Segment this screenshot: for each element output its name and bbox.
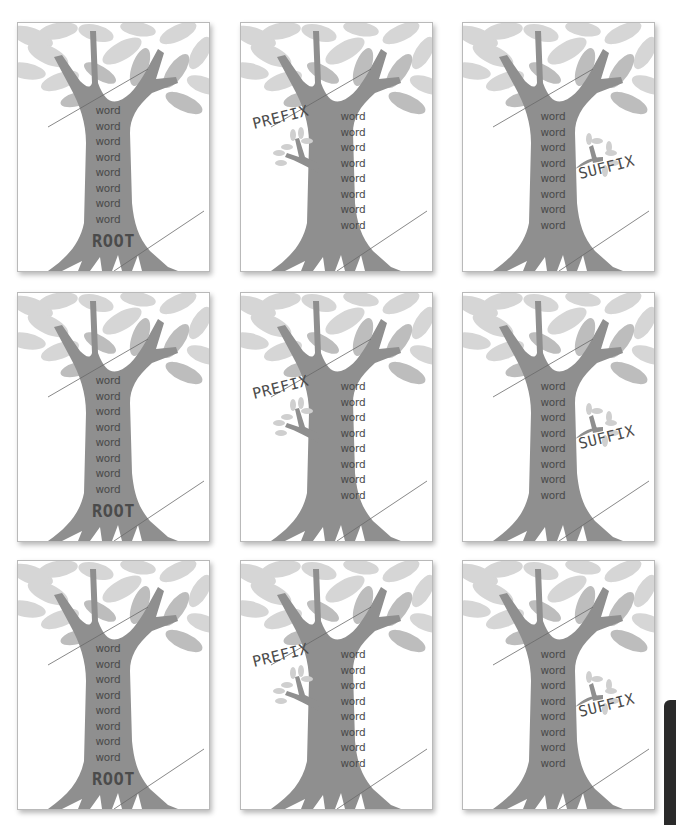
word-entry: word — [333, 457, 373, 473]
word-entry: word — [533, 740, 573, 756]
word-entry: word — [533, 171, 573, 187]
word-entry: word — [333, 709, 373, 725]
word-entry: word — [533, 457, 573, 473]
tree-card-root: wordwordwordwordwordwordwordword ROOT — [17, 292, 210, 542]
word-entry: word — [88, 672, 128, 688]
word-entry: word — [533, 441, 573, 457]
word-list: wordwordwordwordwordwordwordword — [88, 103, 128, 227]
word-entry: word — [333, 488, 373, 504]
word-entry: word — [333, 756, 373, 772]
word-entry: word — [533, 756, 573, 772]
word-entry: word — [333, 187, 373, 203]
word-list: wordwordwordwordwordwordwordword — [333, 109, 373, 233]
word-entry: word — [88, 150, 128, 166]
word-entry: word — [333, 426, 373, 442]
word-entry: word — [533, 472, 573, 488]
tree-card-prefix: wordwordwordwordwordwordwordword PREFIX — [240, 292, 433, 542]
word-entry: word — [88, 196, 128, 212]
word-list: wordwordwordwordwordwordwordword — [333, 379, 373, 503]
word-entry: word — [88, 119, 128, 135]
word-entry: word — [333, 647, 373, 663]
word-entry: word — [88, 657, 128, 673]
word-entry: word — [88, 719, 128, 735]
word-entry: word — [533, 709, 573, 725]
word-entry: word — [533, 488, 573, 504]
word-entry: word — [88, 451, 128, 467]
root-label: ROOT — [92, 769, 135, 789]
tree-card-prefix: wordwordwordwordwordwordwordword PREFIX — [240, 560, 433, 810]
word-entry: word — [88, 103, 128, 119]
word-entry: word — [88, 750, 128, 766]
word-list: wordwordwordwordwordwordwordword — [88, 373, 128, 497]
tree-card-suffix: wordwordwordwordwordwordwordword SUFFIX — [462, 560, 655, 810]
word-entry: word — [333, 410, 373, 426]
word-entry: word — [333, 171, 373, 187]
word-entry: word — [333, 140, 373, 156]
word-entry: word — [88, 212, 128, 228]
word-list: wordwordwordwordwordwordwordword — [533, 379, 573, 503]
word-entry: word — [88, 703, 128, 719]
word-entry: word — [533, 410, 573, 426]
word-entry: word — [88, 181, 128, 197]
word-entry: word — [533, 140, 573, 156]
word-list: wordwordwordwordwordwordwordword — [533, 109, 573, 233]
word-entry: word — [88, 482, 128, 498]
root-label: ROOT — [92, 501, 135, 521]
word-entry: word — [533, 426, 573, 442]
side-tab-edge — [664, 700, 676, 825]
word-list: wordwordwordwordwordwordwordword — [533, 647, 573, 771]
word-entry: word — [533, 395, 573, 411]
word-entry: word — [333, 379, 373, 395]
word-entry: word — [88, 373, 128, 389]
word-entry: word — [333, 441, 373, 457]
word-list: wordwordwordwordwordwordwordword — [333, 647, 373, 771]
word-entry: word — [533, 663, 573, 679]
word-entry: word — [333, 109, 373, 125]
word-entry: word — [533, 694, 573, 710]
word-list: wordwordwordwordwordwordwordword — [88, 641, 128, 765]
tree-card-prefix: wordwordwordwordwordwordwordword PREFIX — [240, 22, 433, 272]
word-entry: word — [533, 218, 573, 234]
word-entry: word — [333, 740, 373, 756]
word-entry: word — [333, 694, 373, 710]
word-entry: word — [533, 109, 573, 125]
word-entry: word — [333, 395, 373, 411]
word-entry: word — [533, 725, 573, 741]
word-entry: word — [533, 678, 573, 694]
word-entry: word — [533, 156, 573, 172]
word-entry: word — [333, 472, 373, 488]
word-entry: word — [333, 125, 373, 141]
root-label: ROOT — [92, 231, 135, 251]
word-entry: word — [88, 389, 128, 405]
word-entry: word — [88, 734, 128, 750]
word-entry: word — [88, 404, 128, 420]
tree-card-root: wordwordwordwordwordwordwordword ROOT — [17, 560, 210, 810]
word-entry: word — [533, 647, 573, 663]
word-entry: word — [88, 641, 128, 657]
word-entry: word — [533, 202, 573, 218]
word-entry: word — [88, 435, 128, 451]
word-entry: word — [533, 125, 573, 141]
tree-card-root: wordwordwordwordwordwordwordword ROOT — [17, 22, 210, 272]
word-entry: word — [88, 688, 128, 704]
word-entry: word — [88, 134, 128, 150]
word-entry: word — [333, 663, 373, 679]
word-entry: word — [333, 678, 373, 694]
tree-card-suffix: wordwordwordwordwordwordwordword SUFFIX — [462, 292, 655, 542]
word-entry: word — [333, 156, 373, 172]
word-entry: word — [533, 379, 573, 395]
word-entry: word — [333, 218, 373, 234]
word-entry: word — [88, 466, 128, 482]
word-entry: word — [333, 725, 373, 741]
word-entry: word — [533, 187, 573, 203]
word-entry: word — [88, 420, 128, 436]
tree-card-suffix: wordwordwordwordwordwordwordword SUFFIX — [462, 22, 655, 272]
word-entry: word — [333, 202, 373, 218]
word-entry: word — [88, 165, 128, 181]
